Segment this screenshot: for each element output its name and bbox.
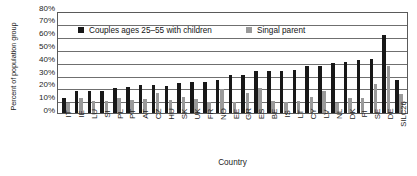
x-tick-cell: DE [381,114,394,152]
x-tick-cell: HU [162,114,175,152]
x-axis-tick-labels: ITIELUSIPLPTATCZHUSKUKFRNOEEGRESBEISLTCY… [57,114,408,152]
legend-label-couples: Couples ages 25–55 with children [89,26,212,35]
y-axis-tick-20: 20% [39,81,55,89]
x-tick-cell: FR [200,114,213,152]
plot-area: Couples ages 25–55 with children Singal … [57,12,408,115]
y-axis-tick-labels: 80%70%60%50%40%30%20%10%0% [22,8,55,116]
bar-group [341,13,354,114]
legend-label-single-parent: Singal parent [257,26,305,35]
legend-entry-single-parent: Singal parent [246,26,305,35]
bar [293,70,297,113]
x-tick-cell: LV [316,114,329,152]
x-tick-cell: SE [368,114,381,152]
bar [344,62,348,113]
x-tick-cell: PL [110,114,123,152]
bar-group [380,13,393,114]
bar-group [367,13,380,114]
bar [370,59,374,113]
x-tick-cell: PT [123,114,136,152]
x-tick-cell: ES [252,114,265,152]
x-tick-cell: LT [291,114,304,152]
x-tick-cell: SILC26 [394,114,407,152]
bar [331,63,335,113]
x-tick-cell: UK [187,114,200,152]
y-axis-tick-0: 0% [43,107,55,115]
x-tick-cell: DK [342,114,355,152]
x-axis-tick-label: SILC26 [400,101,408,126]
bar-chart-figure: Percent of population group 80%70%60%50%… [0,0,417,176]
bar [267,71,271,113]
x-tick-cell: GR [239,114,252,152]
x-axis-title: Country [57,158,408,167]
y-axis-tick-80: 80% [39,5,55,13]
legend-swatch-single-parent-icon [246,27,252,33]
x-tick-cell: SK [175,114,188,152]
x-tick-cell: NO [213,114,226,152]
x-tick-cell: LU [84,114,97,152]
y-axis-title: Percent of population group [9,2,18,132]
x-tick-cell: BE [265,114,278,152]
x-tick-cell: IT [59,114,72,152]
bar [318,66,322,113]
bar [305,66,309,113]
bar [280,71,284,113]
y-axis-tick-60: 60% [39,30,55,38]
y-axis-tick-10: 10% [39,94,55,102]
bar [357,60,361,113]
bar [254,71,258,113]
y-axis-tick-50: 50% [39,43,55,51]
y-axis-tick-70: 70% [39,17,55,25]
bar [387,66,391,113]
bar [382,35,386,113]
x-tick-cell: NL [329,114,342,152]
bar-group [226,13,239,114]
bar-group [316,13,329,114]
bar [229,75,233,113]
x-tick-cell: SI [97,114,110,152]
x-tick-cell: AT [136,114,149,152]
bar-group [213,13,226,114]
y-axis-tick-30: 30% [39,69,55,77]
x-tick-cell: CZ [149,114,162,152]
legend-swatch-couples-icon [78,27,84,33]
x-tick-cell: EE [226,114,239,152]
x-tick-cell: CY [303,114,316,152]
x-tick-cell: IS [278,114,291,152]
bar-group [329,13,342,114]
bar-group [354,13,367,114]
y-axis-tick-40: 40% [39,56,55,64]
legend-entry-couples: Couples ages 25–55 with children [78,26,212,35]
bar-group [60,13,73,114]
x-tick-cell: FI [355,114,368,152]
bar-group [393,13,406,114]
x-tick-cell: IE [71,114,84,152]
